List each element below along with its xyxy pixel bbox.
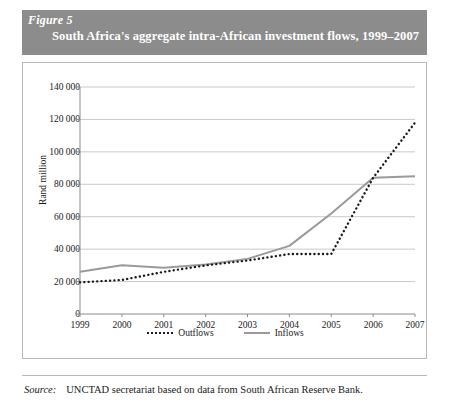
chart-frame: Rand million 020 00040 00060 00080 00010… [22, 62, 427, 359]
legend-swatch-outflows-icon [147, 328, 173, 338]
chart-canvas [23, 63, 428, 360]
legend-label: Inflows [275, 328, 304, 338]
figure-title: South Africa's aggregate intra-African i… [28, 28, 427, 45]
source-note: Source:UNCTAD secretariat based on data … [24, 384, 429, 395]
legend-item-inflows[interactable]: Inflows [244, 328, 304, 338]
figure-header-banner: Figure 5 South Africa's aggregate intra-… [22, 10, 427, 55]
source-text: UNCTAD secretariat based on data from So… [66, 384, 363, 395]
legend-label: Outflows [178, 328, 213, 338]
plot-area: Rand million 020 00040 00060 00080 00010… [23, 63, 428, 360]
chart-legend: OutflowsInflows [23, 328, 428, 338]
series-line-inflows [80, 176, 415, 272]
legend-item-outflows[interactable]: Outflows [147, 328, 213, 338]
source-label: Source: [24, 384, 56, 395]
figure-container: Figure 5 South Africa's aggregate intra-… [0, 0, 449, 417]
data-series [80, 123, 415, 283]
figure-label: Figure 5 [28, 13, 427, 28]
source-divider [22, 375, 427, 376]
legend-swatch-inflows-icon [244, 328, 270, 338]
axis-lines [77, 87, 415, 317]
